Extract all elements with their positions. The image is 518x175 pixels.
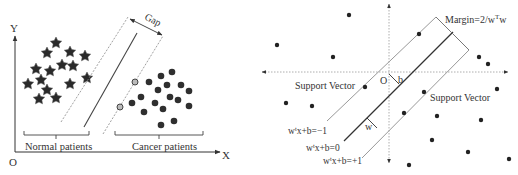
hyperplane-zero xyxy=(344,32,453,141)
right-origin-label: O xyxy=(380,75,387,86)
cancer-patients-label: Cancer patients xyxy=(132,141,197,152)
cancer-patient-dots xyxy=(129,69,193,129)
equation-zero: wtx+b=0 xyxy=(306,142,340,153)
decision-line xyxy=(84,33,137,127)
equation-plus-one: wtx+b=+1 xyxy=(323,155,362,166)
left-panel: Y X O Gap xyxy=(9,11,230,168)
normal-patients-label: Normal patients xyxy=(25,141,92,152)
x-axis-label: X xyxy=(222,149,230,161)
margin-label: Margin=2/wTw xyxy=(445,13,507,25)
origin-label: O xyxy=(9,156,17,168)
normal-brace xyxy=(24,131,89,139)
gap-label: Gap xyxy=(143,11,163,28)
bias-label: b xyxy=(398,74,403,85)
y-axis-label: Y xyxy=(10,22,18,34)
svm-diagram: Y X O Gap xyxy=(0,0,518,175)
right-panel: Margin=2/wTw O b w Support Vector Suppor… xyxy=(262,4,511,167)
normal-patient-stars xyxy=(22,37,92,104)
right-margin-line xyxy=(103,36,163,134)
support-vector-label-right: Support Vector xyxy=(430,92,491,103)
normal-vector-label: w xyxy=(365,121,373,132)
equation-minus-one: wtx+b=−1 xyxy=(288,125,327,136)
support-vector-label-left: Support Vector xyxy=(295,80,356,91)
hyperplane-plus xyxy=(362,50,469,158)
cancer-brace xyxy=(115,131,203,139)
